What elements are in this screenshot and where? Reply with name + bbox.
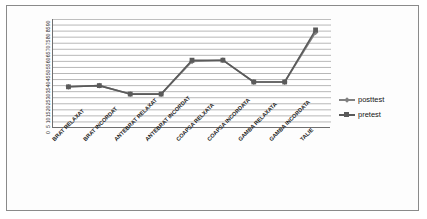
legend-item-pretest[interactable]: pretest xyxy=(339,107,415,122)
chart-legend: posttestpretest xyxy=(339,92,415,122)
x-axis-tick-label: TALIE xyxy=(298,127,313,142)
legend-diamond-marker-icon xyxy=(344,97,350,103)
legend-label: pretest xyxy=(358,110,381,119)
x-axis-tick-label: BRAT RELAXAT xyxy=(51,108,85,142)
legend-line-icon xyxy=(339,114,355,116)
chart-frame: 051015202530354045505560657075808590 BRA… xyxy=(6,5,419,211)
legend-line-icon xyxy=(339,99,355,101)
chart-plot-area-wrapper: 051015202530354045505560657075808590 BRA… xyxy=(7,6,420,212)
legend-item-posttest[interactable]: posttest xyxy=(339,92,415,107)
legend-label: posttest xyxy=(358,95,384,104)
legend-square-marker-icon xyxy=(344,112,349,117)
